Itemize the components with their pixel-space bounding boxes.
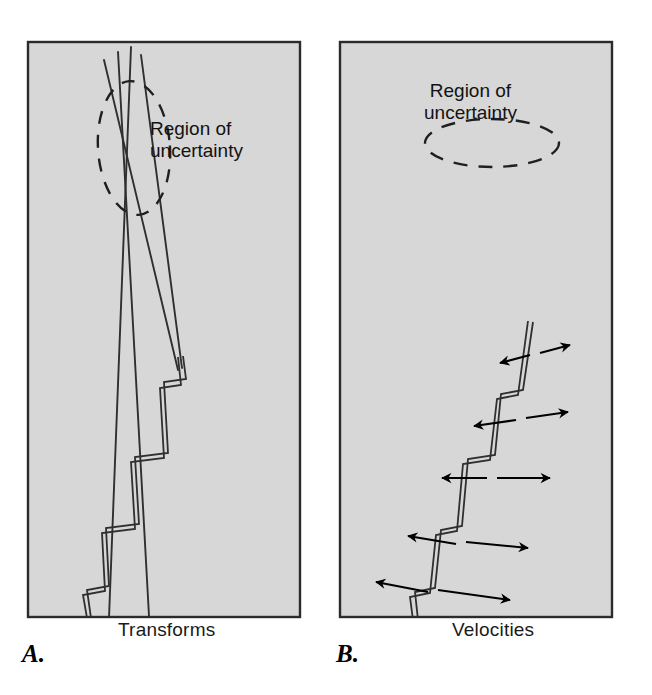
region-of-uncertainty-label-a: Region of uncertainty — [150, 118, 243, 162]
region-of-uncertainty-label-b: Region of uncertainty — [424, 80, 517, 124]
panel-a-letter: A. — [22, 640, 45, 668]
panel-b — [340, 42, 612, 620]
panel-a-caption: Transforms — [118, 619, 215, 641]
panel-b-frame — [340, 42, 612, 617]
panel-b-letter: B. — [336, 640, 359, 668]
plate-boundary-figure — [0, 0, 652, 695]
panel-b-caption: Velocities — [452, 619, 534, 641]
